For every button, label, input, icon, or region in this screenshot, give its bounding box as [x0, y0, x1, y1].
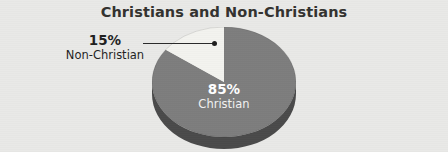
christian-name: Christian [186, 97, 262, 111]
non-christian-name: Non-Christian [60, 48, 150, 62]
christian-percent: 85% [186, 82, 262, 96]
pie-chart-figure: Christians and Non-Christians 15% Non- [0, 0, 448, 152]
non-christian-percent: 15% [60, 33, 150, 47]
non-christian-label: 15% Non-Christian [60, 33, 150, 62]
non-christian-leader-line [143, 43, 215, 44]
non-christian-leader-dot [212, 41, 217, 46]
christian-label: 85% Christian [186, 82, 262, 111]
chart-title: Christians and Non-Christians [0, 4, 448, 20]
